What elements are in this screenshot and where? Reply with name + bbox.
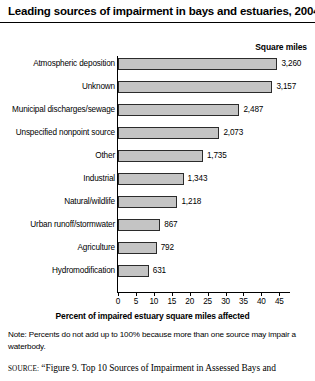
bar-category-label: Unknown: [82, 82, 115, 91]
bar-value-label: 3,260: [281, 59, 301, 68]
bar-row: Atmospheric deposition3,260: [0, 56, 315, 79]
source-line: SOURCE: “Figure 9. Top 10 Sources of Imp…: [8, 362, 310, 375]
x-axis-tick-label: 15: [167, 297, 176, 306]
x-axis-tick: [243, 292, 244, 296]
bar-category-label: Urban runoff/stormwater: [30, 220, 115, 229]
x-axis-tick: [118, 292, 119, 296]
x-axis-tick-label: 35: [239, 297, 248, 306]
x-axis-tick-label: 10: [149, 297, 158, 306]
bar-row: Urban runoff/stormwater867: [0, 217, 315, 240]
bar-value-label: 2,487: [243, 105, 263, 114]
bar-row: Hydromodification631: [0, 263, 315, 286]
x-axis-tick: [136, 292, 137, 296]
bar-value-label: 1,218: [181, 197, 201, 206]
bar-value-label: 2,073: [223, 128, 243, 137]
x-axis-tick: [190, 292, 191, 296]
bar: [118, 265, 149, 277]
bar-category-label: Municipal discharges/sewage: [12, 105, 115, 114]
x-axis-tick-label: 5: [134, 297, 138, 306]
source-prefix: SOURCE:: [8, 365, 39, 373]
bar-row: Industrial1,343: [0, 171, 315, 194]
x-axis-label: Percent of impaired estuary square miles…: [0, 311, 305, 321]
x-axis-tick: [172, 292, 173, 296]
x-axis-tick-label: 0: [116, 297, 120, 306]
bar: [118, 242, 157, 254]
bar-value-label: 792: [161, 243, 174, 252]
title-divider: [0, 22, 315, 23]
x-axis-tick: [226, 292, 227, 296]
x-axis-tick: [279, 292, 280, 296]
bar-value-label: 1,343: [188, 174, 208, 183]
bar-category-label: Other: [95, 151, 115, 160]
chart-title: Leading sources of impairment in bays an…: [8, 5, 308, 18]
bar: [118, 127, 219, 139]
bar-row: Natural/wildlife1,218: [0, 194, 315, 217]
bar: [118, 150, 203, 162]
bar-row: Other1,735: [0, 148, 315, 171]
x-axis-tick: [208, 292, 209, 296]
bar: [118, 81, 272, 93]
x-axis-tick-label: 45: [275, 297, 284, 306]
bar-value-label: 1,735: [207, 151, 227, 160]
bar-category-label: Industrial: [83, 174, 115, 183]
bar-row: Agriculture792: [0, 240, 315, 263]
bar-value-label: 867: [164, 220, 177, 229]
bar-value-label: 3,157: [276, 82, 296, 91]
x-axis-tick-label: 30: [221, 297, 230, 306]
x-axis-tick-label: 40: [257, 297, 266, 306]
x-axis-line: [117, 292, 290, 293]
bar-category-label: Agriculture: [78, 243, 116, 252]
bar-row: Unspecified nonpoint source2,073: [0, 125, 315, 148]
x-axis-tick: [154, 292, 155, 296]
bar-category-label: Unspecified nonpoint source: [16, 128, 115, 137]
bar-category-label: Atmospheric deposition: [33, 59, 115, 68]
bar: [118, 219, 160, 231]
bar-chart-plot-area: Atmospheric deposition3,260Unknown3,157M…: [0, 56, 315, 294]
chart-note: Note: Percents do not add up to 100% bec…: [8, 329, 308, 352]
bar-row: Unknown3,157: [0, 79, 315, 102]
bar-category-label: Hydromodification: [52, 266, 115, 275]
value-column-header: Square miles: [255, 42, 307, 52]
x-axis-tick-label: 20: [185, 297, 194, 306]
source-text: “Figure 9. Top 10 Sources of Impairment …: [41, 363, 275, 373]
bar: [118, 104, 239, 116]
bar: [118, 173, 184, 185]
x-axis-tick-label: 25: [203, 297, 212, 306]
bar: [118, 58, 277, 70]
x-axis-tick: [261, 292, 262, 296]
bar-category-label: Natural/wildlife: [64, 197, 115, 206]
bar-value-label: 631: [153, 266, 166, 275]
bar-row: Municipal discharges/sewage2,487: [0, 102, 315, 125]
bar: [118, 196, 177, 208]
